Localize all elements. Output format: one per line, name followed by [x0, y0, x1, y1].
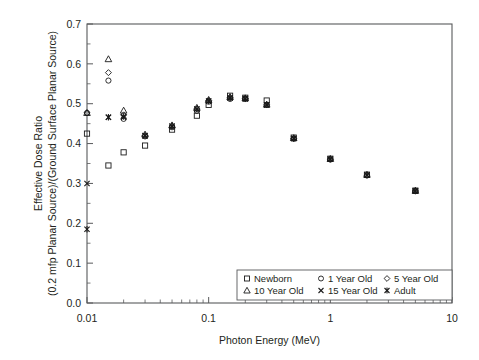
data-points-layer	[84, 56, 419, 233]
data-point	[206, 98, 211, 104]
y-axis-title-line1: Effective Dose Ratio	[32, 116, 44, 211]
data-point	[106, 114, 111, 120]
data-point	[106, 78, 111, 83]
marker-diamond	[105, 70, 111, 76]
plot-frame	[87, 24, 452, 303]
legend-entry: 15 Year Old	[319, 285, 378, 296]
series-adult	[84, 95, 418, 233]
marker-triangle	[105, 56, 112, 62]
legend-label: Newborn	[254, 273, 292, 284]
y-tick-label: 0.2	[66, 217, 81, 229]
legend-label: 15 Year Old	[328, 285, 378, 296]
legend: Newborn1 Year Old5 Year Old10 Year Old15…	[237, 270, 452, 300]
marker-square	[106, 163, 111, 168]
data-point	[106, 163, 111, 168]
legend-label: 1 Year Old	[328, 273, 372, 284]
chart-figure: 0.00.10.20.30.40.50.60.70.010.1110Photon…	[0, 0, 479, 360]
marker-square	[142, 143, 147, 148]
x-tick-label: 0.1	[201, 312, 216, 324]
y-tick-label: 0.1	[66, 257, 81, 269]
effective-dose-ratio-scatter-chart: 0.00.10.20.30.40.50.60.70.010.1110Photon…	[0, 0, 479, 360]
y-tick-label: 0.6	[66, 58, 81, 70]
legend-label: 5 Year Old	[394, 273, 438, 284]
legend-label: Adult	[394, 285, 416, 296]
data-point	[105, 70, 111, 76]
series-5-year-old	[84, 70, 418, 194]
y-tick-label: 0.3	[66, 177, 81, 189]
y-axis: 0.00.10.20.30.40.50.60.7	[66, 18, 93, 309]
marker-square	[121, 150, 126, 155]
x-axis-title: Photon Energy (MeV)	[219, 334, 320, 346]
data-point	[84, 226, 89, 232]
data-point	[121, 150, 126, 155]
data-point	[142, 143, 147, 148]
legend-label: 10 Year Old	[254, 285, 304, 296]
y-tick-label: 0.4	[66, 137, 81, 149]
y-axis-title-line2: (0.2 mfp Planar Source)/(Ground Surface …	[46, 31, 58, 296]
series-15-year-old	[84, 96, 418, 194]
y-tick-label: 0.7	[66, 18, 81, 30]
data-point	[142, 132, 147, 138]
y-tick-label: 0.5	[66, 97, 81, 109]
marker-circle	[106, 78, 111, 83]
series-10-year-old	[84, 56, 419, 193]
x-axis: 0.010.1110	[77, 297, 458, 324]
y-tick-label: 0.0	[66, 297, 81, 309]
x-tick-label: 1	[327, 312, 333, 324]
x-tick-label: 0.01	[77, 312, 98, 324]
data-point	[105, 56, 112, 62]
x-tick-label: 10	[446, 312, 458, 324]
